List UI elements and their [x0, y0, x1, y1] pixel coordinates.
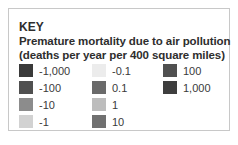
swatch-icon — [92, 98, 106, 111]
legend-item: 0.1 — [92, 80, 127, 95]
swatch-icon — [163, 64, 177, 77]
swatch-icon — [92, 81, 106, 94]
legend-grid: -1,000 -100 -10 -1 -0.1 0.1 1 10 — [19, 63, 229, 133]
swatch-icon — [163, 81, 177, 94]
legend-label: 10 — [112, 116, 124, 128]
legend-item: 1,000 — [163, 80, 211, 95]
legend-item: -100 — [19, 80, 61, 95]
swatch-icon — [92, 64, 106, 77]
key-heading-line1: Premature mortality due to air pollution — [19, 34, 230, 48]
swatch-icon — [19, 115, 33, 128]
legend-item: 10 — [92, 114, 124, 129]
legend-item: 1 — [92, 97, 118, 112]
legend-item: 100 — [163, 63, 201, 78]
legend-label: -1,000 — [39, 65, 70, 77]
legend-label: -100 — [39, 82, 61, 94]
legend-label: 1 — [112, 99, 118, 111]
key-heading-line2: (deaths per year per 400 square miles) — [19, 48, 230, 62]
swatch-icon — [19, 98, 33, 111]
legend-label: -0.1 — [112, 65, 131, 77]
legend-label: 0.1 — [112, 82, 127, 94]
legend-label: -1 — [39, 116, 49, 128]
swatch-icon — [19, 64, 33, 77]
legend-item: -0.1 — [92, 63, 131, 78]
swatch-icon — [92, 115, 106, 128]
legend-item: -10 — [19, 97, 55, 112]
key-title: KEY — [19, 21, 44, 34]
legend-key-box: KEY Premature mortality due to air pollu… — [8, 8, 230, 131]
legend-label: 100 — [183, 65, 201, 77]
key-heading: Premature mortality due to air pollution… — [19, 34, 230, 62]
legend-label: -10 — [39, 99, 55, 111]
legend-item: -1,000 — [19, 63, 70, 78]
legend-label: 1,000 — [183, 82, 211, 94]
legend-item: -1 — [19, 114, 49, 129]
swatch-icon — [19, 81, 33, 94]
